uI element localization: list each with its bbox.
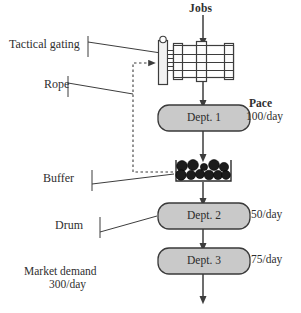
tactical-gate-icon (159, 36, 234, 84)
pace-label: Pace (249, 97, 272, 109)
dept2-rate: 50/day (251, 208, 282, 220)
tactical-gating-leader (88, 36, 161, 57)
buffer-leader (92, 170, 174, 191)
drum-label: Drum (55, 219, 83, 232)
jobs-label: Jobs (189, 2, 212, 14)
market-demand-label: Market demand (24, 265, 97, 277)
dept3-label-wrap: Dept. 3 (158, 254, 250, 266)
dept1-label: Dept. 1 (158, 111, 250, 123)
drum-leader (100, 216, 157, 238)
diagram-canvas: Jobs Tactical gating Rope Pace 100/day D… (0, 0, 301, 313)
buffer-queue-icon (176, 160, 231, 181)
market-demand-value: 300/day (49, 278, 86, 290)
tactical-gating-label: Tactical gating (9, 38, 80, 51)
buffer-label: Buffer (43, 172, 74, 185)
pace-value: 100/day (246, 110, 283, 122)
dept1-label-wrap: Dept. 1 (158, 111, 250, 123)
dept3-rate: 75/day (251, 253, 282, 265)
rope-label: Rope (44, 78, 69, 91)
dept2-label: Dept. 2 (158, 209, 250, 221)
rope-leader (68, 76, 133, 97)
dept2-label-wrap: Dept. 2 (158, 209, 250, 221)
dept3-label: Dept. 3 (158, 254, 250, 266)
